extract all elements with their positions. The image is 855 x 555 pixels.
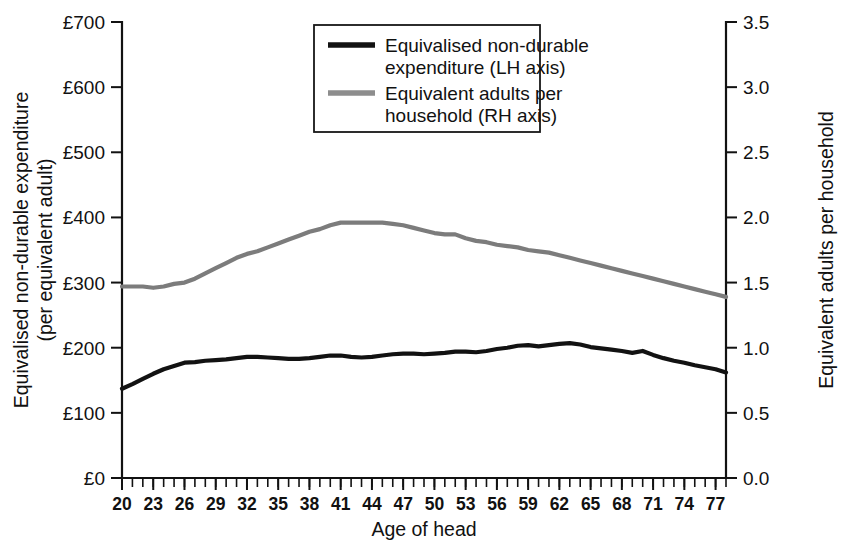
x-axis-tick-label: 62 xyxy=(550,494,570,514)
y-axis-right-tick-label: 2.0 xyxy=(743,207,769,228)
x-axis-tick-labels: 2023262932353841444750535659626568717477 xyxy=(112,494,725,514)
series-lines-group xyxy=(122,223,726,389)
y-axis-left-title-line2: (per equivalent adult) xyxy=(34,158,56,341)
y-axis-right-tick-labels: 0.00.51.01.52.02.53.03.5 xyxy=(743,12,769,489)
y-axis-right-title: Equivalent adults per household xyxy=(815,111,837,389)
x-axis-tick-label: 26 xyxy=(175,494,195,514)
x-axis-tick-label: 38 xyxy=(300,494,320,514)
x-axis-tick-label: 20 xyxy=(112,494,132,514)
y-axis-left-tick-label: £300 xyxy=(63,273,105,294)
y-axis-right-tick-label: 1.5 xyxy=(743,273,769,294)
x-axis-tick-label: 44 xyxy=(362,494,382,514)
x-axis-tick-label: 71 xyxy=(643,494,663,514)
x-axis-tick-label: 74 xyxy=(675,494,695,514)
y-axis-left-tick-label: £200 xyxy=(63,338,105,359)
y-axis-right-tick-label: 0.0 xyxy=(743,468,769,489)
y-axis-right-tick-label: 0.5 xyxy=(743,403,769,424)
y-axis-left-tick-label: £100 xyxy=(63,403,105,424)
y-axis-left-tick-label: £500 xyxy=(63,142,105,163)
x-axis-tick-label: 23 xyxy=(144,494,164,514)
x-axis-tick-label: 77 xyxy=(706,494,725,514)
x-axis-tick-label: 68 xyxy=(612,494,632,514)
y-axis-left-tick-labels: £0£100£200£300£400£500£600£700 xyxy=(63,12,105,489)
y-axis-right-tick-label: 3.0 xyxy=(743,77,769,98)
chart-container: £0£100£200£300£400£500£600£700 0.00.51.0… xyxy=(0,0,855,555)
x-axis-tick-label: 50 xyxy=(425,494,445,514)
y-axis-right-tick-label: 2.5 xyxy=(743,142,769,163)
y-axis-left-ticks xyxy=(111,22,122,478)
x-axis-tick-label: 53 xyxy=(456,494,476,514)
y-axis-right-tick-label: 3.5 xyxy=(743,12,769,33)
y-axis-left-title-line1: Equivalised non-durable expenditure xyxy=(10,92,32,409)
y-axis-right-tick-label: 1.0 xyxy=(743,338,769,359)
series-line-expenditure xyxy=(122,343,726,389)
x-axis-title: Age of head xyxy=(371,518,476,540)
x-axis-tick-label: 59 xyxy=(518,494,538,514)
legend-label-expenditure-line2: expenditure (LH axis) xyxy=(385,57,566,78)
x-axis-tick-label: 29 xyxy=(206,494,226,514)
x-axis-minor-ticks xyxy=(122,478,726,487)
y-axis-left-tick-label: £0 xyxy=(84,468,105,489)
x-axis-tick-label: 47 xyxy=(393,494,412,514)
legend-label-equivalent-adults-line1: Equivalent adults per xyxy=(385,83,563,104)
x-axis-tick-label: 56 xyxy=(487,494,507,514)
y-axis-right-ticks xyxy=(726,22,737,478)
expenditure-age-profile-chart: £0£100£200£300£400£500£600£700 0.00.51.0… xyxy=(0,0,855,555)
legend-label-equivalent-adults-line2: household (RH axis) xyxy=(385,105,557,126)
x-axis-tick-label: 32 xyxy=(237,494,257,514)
legend-label-expenditure-line1: Equivalised non-durable xyxy=(385,35,589,56)
chart-legend: Equivalised non-durable expenditure (LH … xyxy=(314,25,589,132)
x-axis-tick-label: 65 xyxy=(581,494,601,514)
x-axis-tick-label: 35 xyxy=(268,494,288,514)
y-axis-left-tick-label: £700 xyxy=(63,12,105,33)
x-axis-major-ticks xyxy=(122,478,716,490)
y-axis-left-tick-label: £600 xyxy=(63,77,105,98)
y-axis-left-tick-label: £400 xyxy=(63,207,105,228)
x-axis-tick-label: 41 xyxy=(331,494,351,514)
series-line-equivalent-adults xyxy=(122,223,726,297)
